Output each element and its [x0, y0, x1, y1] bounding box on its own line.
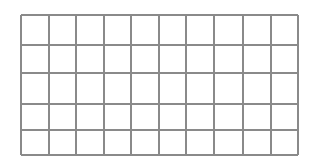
- grid-vertical-line: [103, 15, 105, 155]
- grid-horizontal-line: [21, 129, 298, 131]
- grid-vertical-line: [270, 15, 272, 155]
- grid-vertical-line: [158, 15, 160, 155]
- grid-horizontal-line: [21, 103, 298, 105]
- grid-horizontal-line: [21, 72, 298, 74]
- grid-horizontal-line: [21, 44, 298, 46]
- grid-horizontal-line: [21, 154, 298, 156]
- grid-vertical-line: [242, 15, 244, 155]
- grid-vertical-line: [213, 15, 215, 155]
- empty-grid: [21, 15, 298, 155]
- grid-vertical-line: [130, 15, 132, 155]
- grid-vertical-line: [75, 15, 77, 155]
- grid-vertical-line: [48, 15, 50, 155]
- grid-vertical-line: [185, 15, 187, 155]
- grid-vertical-line: [297, 15, 299, 155]
- grid-horizontal-line: [21, 14, 298, 16]
- grid-vertical-line: [20, 15, 22, 155]
